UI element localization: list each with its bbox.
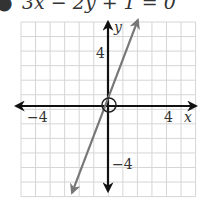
y-tick-label-4: 4: [96, 45, 105, 61]
y-tick-label-neg4: −4: [112, 156, 133, 172]
y-axis-label: y: [113, 19, 123, 35]
x-tick-label-4: 4: [164, 109, 173, 125]
x-axis-label: x: [184, 109, 192, 125]
x-tick-label-neg4: −4: [27, 109, 48, 125]
coordinate-plane: 4 y −4 4 x −4: [0, 0, 203, 203]
